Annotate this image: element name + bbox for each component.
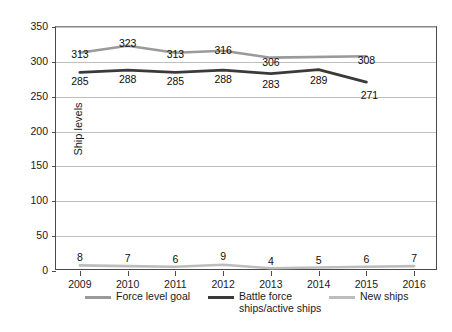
point-label-battle-2009: 285 [71, 75, 88, 87]
point-label-goal-2012: 316 [215, 44, 232, 56]
series-line-new-ships [80, 265, 414, 268]
y-tick-label-100: 100 [10, 194, 48, 206]
plot-area: 350 300 250 200 150 100 50 0 Ship levels… [55, 26, 437, 270]
legend-label-new-ships: New ships [360, 290, 408, 302]
point-label-newships-2011: 6 [173, 253, 179, 265]
legend-label-line1: Force level goal [116, 290, 190, 302]
y-tick-label-300: 300 [10, 55, 48, 67]
x-tick-mark-2015 [366, 271, 367, 276]
series-lines [56, 27, 438, 271]
legend-label-force-level-goal: Force level goal [116, 290, 190, 302]
legend-item-force-level-goal[interactable]: Force level goal [85, 290, 190, 302]
x-tick-mark-2010 [128, 271, 129, 276]
point-label-newships-2013: 4 [268, 255, 274, 267]
x-tick-label-2016: 2016 [391, 278, 437, 290]
x-tick-mark-2013 [271, 271, 272, 276]
legend-swatch-battle-force-ships [208, 296, 234, 299]
point-label-newships-2015: 6 [364, 253, 370, 265]
point-label-goal-2010: 323 [119, 37, 136, 49]
legend-swatch-new-ships [329, 296, 355, 299]
point-label-goal-2013: 306 [262, 56, 279, 68]
x-tick-label-2011: 2011 [152, 278, 198, 290]
point-label-goal-2009: 313 [71, 48, 88, 60]
x-tick-label-2009: 2009 [57, 278, 103, 290]
y-tick-label-200: 200 [10, 125, 48, 137]
x-tick-label-2014: 2014 [296, 278, 342, 290]
point-label-battle-2014: 289 [310, 74, 327, 86]
point-label-newships-2016: 7 [411, 252, 417, 264]
point-label-battle-2010: 288 [119, 73, 136, 85]
x-tick-mark-2014 [319, 271, 320, 276]
legend-label-line1: Battle force [239, 290, 292, 302]
x-tick-label-2012: 2012 [200, 278, 246, 290]
line-chart-figure: 350 300 250 200 150 100 50 0 Ship levels… [0, 0, 452, 332]
point-label-newships-2010: 7 [125, 252, 131, 264]
point-label-newships-2014: 5 [316, 254, 322, 266]
y-tick-label-250: 250 [10, 90, 48, 102]
point-label-newships-2012: 9 [220, 250, 226, 262]
legend-item-new-ships[interactable]: New ships [329, 290, 408, 302]
point-label-goal-2015: 308 [358, 54, 375, 66]
chart-legend: Force level goal Battle force ships/acti… [55, 290, 437, 326]
y-tick-mark-0 [52, 271, 56, 272]
legend-label-line2: ships/active ships [239, 302, 321, 314]
legend-label-line1: New ships [360, 290, 408, 302]
x-tick-mark-2011 [175, 271, 176, 276]
legend-item-battle-force-ships[interactable]: Battle force ships/active ships [208, 290, 321, 314]
x-tick-mark-2009 [80, 271, 81, 276]
x-tick-label-2015: 2015 [343, 278, 389, 290]
x-tick-mark-2016 [414, 271, 415, 276]
y-tick-label-50: 50 [10, 229, 48, 241]
y-tick-label-150: 150 [10, 159, 48, 171]
y-tick-label-350: 350 [10, 20, 48, 32]
point-label-battle-2015: 271 [361, 89, 378, 101]
point-label-newships-2009: 8 [77, 251, 83, 263]
point-label-battle-2011: 285 [167, 75, 184, 87]
legend-label-battle-force-ships: Battle force ships/active ships [239, 290, 321, 314]
y-tick-label-0: 0 [10, 264, 48, 276]
point-label-battle-2013: 283 [262, 78, 279, 90]
legend-swatch-force-level-goal [85, 296, 111, 299]
x-tick-label-2010: 2010 [105, 278, 151, 290]
point-label-battle-2012: 288 [215, 73, 232, 85]
x-tick-label-2013: 2013 [248, 278, 294, 290]
x-tick-mark-2012 [223, 271, 224, 276]
point-label-goal-2011: 313 [167, 48, 184, 60]
